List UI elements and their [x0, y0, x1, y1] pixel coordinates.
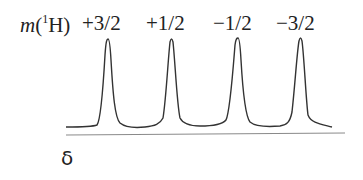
x-axis-line [66, 133, 345, 135]
delta-axis-label: δ [61, 148, 73, 168]
spectrum-trace [66, 38, 332, 128]
spectrum-plot [0, 0, 363, 180]
